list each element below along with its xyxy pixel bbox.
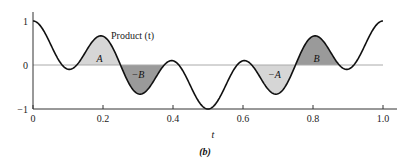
x-tick-label: 0.8 [307,113,320,124]
y-tick-label: −1 [17,104,28,115]
x-tick-label: 0.6 [237,113,250,124]
x-tick-label: 0.2 [97,113,110,124]
region-label: B [313,53,319,64]
region-label: −A [268,69,282,80]
x-tick-label: 0.4 [167,113,180,124]
x-tick-label: 1.0 [377,113,390,124]
x-tick-label: 0 [31,113,36,124]
product-chart: 00.20.40.60.81.010−1A−B−ABProduct (t)t(b… [0,0,410,164]
figure-caption: (b) [199,146,211,158]
y-tick-label: 0 [23,60,28,71]
curve-label: Product (t) [111,30,154,42]
region-label: −B [132,69,145,80]
region-label: A [95,53,103,64]
x-axis-label: t [212,129,215,140]
y-tick-label: 1 [23,16,28,27]
